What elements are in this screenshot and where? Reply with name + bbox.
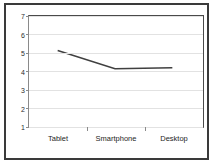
y-axis-tick-label: 5	[21, 50, 25, 57]
gridline-y-1	[29, 127, 203, 128]
gridline-y-5	[29, 53, 203, 54]
x-tick-mark-1	[87, 127, 88, 131]
y-tick-mark-3	[26, 90, 29, 91]
gridline-y-2	[29, 108, 203, 109]
gridline-y-3	[29, 90, 203, 91]
y-tick-mark-5	[26, 53, 29, 54]
y-tick-mark-1	[26, 127, 29, 128]
y-tick-mark-6	[26, 34, 29, 35]
gridline-y-6	[29, 34, 203, 35]
y-axis-tick-label: 7	[21, 13, 25, 20]
y-axis-tick-label: 2	[21, 105, 25, 112]
x-axis-tick-label-tablet: Tablet	[48, 135, 68, 143]
x-axis-tick-label-desktop: Desktop	[160, 135, 188, 143]
y-axis-tick-label: 1	[21, 124, 25, 131]
plot-area: 1234567TabletSmartphoneDesktop	[28, 15, 204, 128]
gridline-y-4	[29, 71, 203, 72]
chart-frame: 1234567TabletSmartphoneDesktop	[4, 3, 209, 160]
x-axis-tick-label-smartphone: Smartphone	[96, 135, 137, 143]
y-tick-mark-4	[26, 71, 29, 72]
y-axis-tick-label: 4	[21, 68, 25, 75]
x-tick-mark-2	[145, 127, 146, 131]
gridline-y-7	[29, 16, 203, 17]
y-axis-tick-label: 3	[21, 87, 25, 94]
y-tick-mark-7	[26, 16, 29, 17]
y-axis-tick-label: 6	[21, 31, 25, 38]
y-tick-mark-2	[26, 108, 29, 109]
